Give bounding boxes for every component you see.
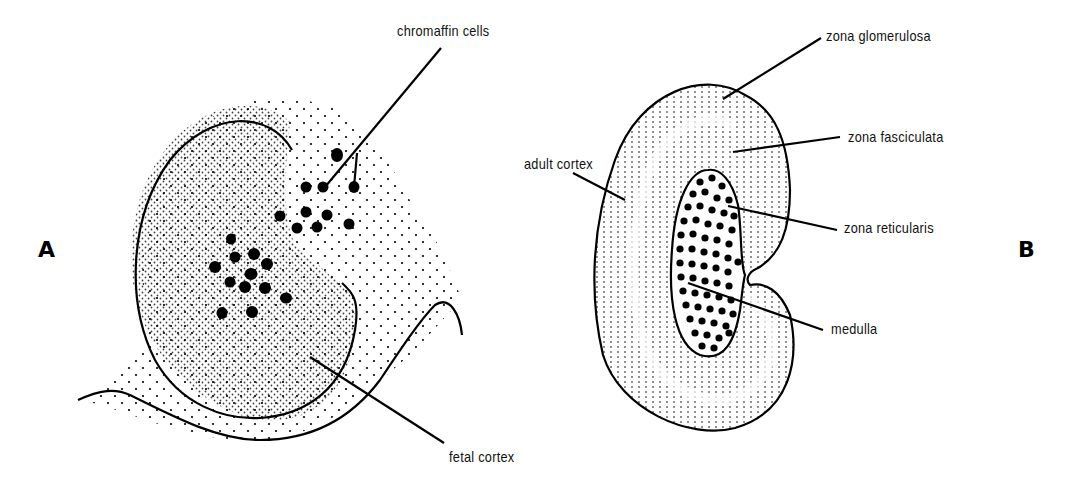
label-fetal-cortex: fetal cortex	[449, 448, 514, 465]
panel-b-drawing	[573, 38, 840, 431]
label-zona-reticularis: zona reticularis	[844, 219, 934, 236]
panel-label-a: A	[38, 237, 55, 262]
label-adult-cortex: adult cortex	[524, 155, 593, 172]
label-medulla: medulla	[831, 320, 877, 337]
diagram-drawing	[0, 0, 1073, 487]
panel-label-b: B	[1018, 237, 1035, 262]
diagram-figure: A B chromaffin cells fetal cortex zona g…	[0, 0, 1073, 487]
label-zona-fasciculata: zona fasciculata	[848, 128, 944, 145]
label-zona-glomerulosa: zona glomerulosa	[826, 27, 931, 44]
label-chromaffin-cells: chromaffin cells	[397, 22, 489, 39]
panel-a-drawing	[78, 48, 462, 443]
